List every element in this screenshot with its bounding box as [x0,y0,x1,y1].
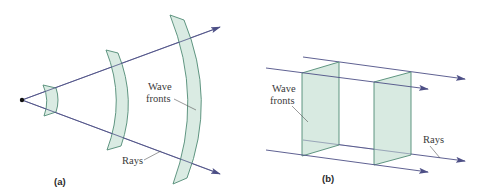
wave-fronts-label-a-line2: fronts [146,93,171,104]
rays-label-b: Rays [423,134,444,145]
point-source [20,98,24,102]
plane-wavefront-left [302,62,339,156]
rays-label-a: Rays [122,155,143,166]
panel-label-a: (a) [54,176,66,187]
wave-fronts-label-a-line1: Wave [148,81,172,92]
rays-leader-b [430,146,440,158]
panel-label-b: (b) [322,173,334,184]
wave-fronts-label-b-line2: fronts [270,95,295,106]
wave-fronts-figure: Wave fronts Rays (a) Wave fronts Rays (b… [0,0,482,193]
panel-b: Wave fronts Rays (b) [266,57,465,184]
wave-fronts-label-b-line1: Wave [272,83,296,94]
rays-leader-a [144,151,161,160]
panel-a: Wave fronts Rays (a) [20,15,220,187]
